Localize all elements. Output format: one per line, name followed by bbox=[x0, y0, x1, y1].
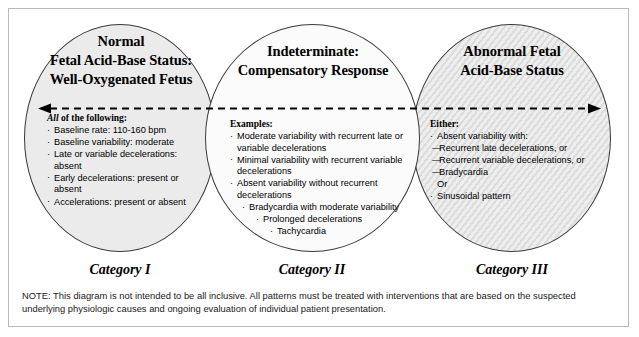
category-3-item-list: ·Absent variability with: —Recurrent lat… bbox=[430, 131, 610, 203]
bullet-icon: · bbox=[47, 149, 50, 161]
list-item-label: Baseline rate: 110-160 bpm bbox=[54, 125, 166, 135]
category-3-list-title-rest: Either: bbox=[430, 119, 459, 129]
list-item: ·Minimal variability with recurrent vari… bbox=[230, 155, 405, 178]
list-item: ·Baseline variability: moderate bbox=[47, 137, 207, 149]
fetal-status-spectrum-arrow bbox=[38, 100, 601, 111]
category-1-heading-line-2: Fetal Acid-Base Status: bbox=[26, 51, 216, 70]
list-item: ·Sinusoidal pattern bbox=[430, 191, 610, 203]
list-item-label: Or bbox=[437, 179, 447, 189]
list-item-label: Minimal variability with recurrent varia… bbox=[237, 155, 402, 177]
list-item: ·Baseline rate: 110-160 bpm bbox=[47, 125, 207, 137]
list-item: —Recurrent variable decelerations, or bbox=[432, 155, 610, 167]
dash-icon: — bbox=[432, 167, 441, 179]
list-item-label: Prolonged decelerations bbox=[263, 214, 362, 224]
list-item: ·Early decelerations: present or absent bbox=[47, 173, 207, 196]
category-2-list-title: Examples: bbox=[230, 118, 405, 130]
category-1-criteria: All of the following: ·Baseline rate: 11… bbox=[47, 112, 207, 209]
category-2-list-title-rest: Examples: bbox=[230, 119, 273, 129]
bullet-icon: · bbox=[47, 125, 50, 137]
list-item: —Bradycardia bbox=[432, 167, 610, 179]
category-3-criteria: Either: ·Absent variability with: —Recur… bbox=[430, 118, 610, 204]
bullet-icon: · bbox=[230, 178, 233, 190]
category-3-caption: Category III bbox=[432, 262, 592, 278]
list-item: ·Absent variability with: bbox=[430, 131, 610, 143]
bullet-icon: · bbox=[256, 214, 259, 226]
category-2-item-list: ·Moderate variability with recurrent lat… bbox=[230, 131, 405, 238]
dash-icon: — bbox=[432, 155, 441, 167]
list-item-label: Bradycardia bbox=[439, 167, 488, 177]
category-1-heading-line-3: Well-Oxygenated Fetus bbox=[26, 70, 216, 89]
bullet-icon: · bbox=[47, 137, 50, 149]
bullet-icon: · bbox=[270, 226, 273, 238]
category-1-item-list: ·Baseline rate: 110-160 bpm ·Baseline va… bbox=[47, 125, 207, 208]
category-2-heading: Indeterminate: Compensatory Response bbox=[206, 42, 420, 80]
category-3-heading-line-1: Abnormal Fetal bbox=[414, 42, 610, 61]
list-item-label: Late or variable decelerations: absent bbox=[54, 149, 177, 171]
bullet-icon: · bbox=[430, 131, 433, 143]
list-item-label: Sinusoidal pattern bbox=[437, 191, 511, 201]
category-1-caption: Category I bbox=[40, 262, 200, 278]
fetal-heart-rate-category-diagram: Normal Fetal Acid-Base Status: Well-Oxyg… bbox=[0, 0, 639, 337]
category-1-list-title-rest: of the following: bbox=[59, 113, 127, 123]
category-3-heading-line-2: Acid-Base Status bbox=[414, 61, 610, 80]
category-3-heading: Abnormal Fetal Acid-Base Status bbox=[414, 42, 610, 80]
list-item: ·Moderate variability with recurrent lat… bbox=[230, 131, 405, 154]
category-2-heading-line-1: Indeterminate: bbox=[206, 42, 420, 61]
list-item-label: Recurrent variable decelerations, or bbox=[439, 155, 585, 165]
category-2-heading-line-2: Compensatory Response bbox=[206, 61, 420, 80]
category-1-heading-line-1: Normal bbox=[26, 32, 216, 51]
category-2-criteria: Examples: ·Moderate variability with rec… bbox=[230, 118, 405, 238]
category-1-heading: Normal Fetal Acid-Base Status: Well-Oxyg… bbox=[26, 32, 216, 89]
list-item: ·Tachycardia bbox=[270, 226, 405, 238]
list-item: ·Absent variability without recurrent de… bbox=[230, 178, 405, 201]
list-item: ·Late or variable decelerations: absent bbox=[47, 149, 207, 172]
bullet-icon: · bbox=[242, 202, 245, 214]
list-item-label: Bradycardia with moderate variability bbox=[249, 202, 399, 212]
list-item: —Recurrent late decelerations, or bbox=[432, 143, 610, 155]
list-item: ·Accelerations: present or absent bbox=[47, 197, 207, 209]
list-item-label: Accelerations: present or absent bbox=[54, 197, 186, 207]
bullet-icon: · bbox=[47, 196, 50, 208]
diagram-note: NOTE: This diagram is not intended to be… bbox=[22, 289, 617, 315]
bullet-icon: · bbox=[230, 154, 233, 166]
list-item-label: Early decelerations: present or absent bbox=[54, 173, 179, 195]
list-item: ·Prolonged decelerations bbox=[256, 214, 405, 226]
list-item-label: Recurrent late decelerations, or bbox=[439, 143, 567, 153]
list-item: ·Bradycardia with moderate variability bbox=[242, 202, 405, 214]
category-2-caption: Category II bbox=[232, 262, 392, 278]
bullet-icon: · bbox=[430, 191, 433, 203]
list-item: Or bbox=[430, 179, 610, 191]
list-item-label: Absent variability with: bbox=[437, 131, 528, 141]
list-item-label: Moderate variability with recurrent late… bbox=[237, 131, 403, 153]
category-3-list-title: Either: bbox=[430, 118, 610, 130]
bullet-icon: · bbox=[47, 172, 50, 184]
list-item-label: Tachycardia bbox=[277, 226, 326, 236]
list-item-label: Absent variability without recurrent dec… bbox=[237, 178, 377, 200]
list-item-label: Baseline variability: moderate bbox=[54, 137, 174, 147]
bullet-icon: · bbox=[230, 131, 233, 143]
category-1-list-title-emphasis: All bbox=[47, 113, 59, 123]
dash-icon: — bbox=[432, 143, 441, 155]
